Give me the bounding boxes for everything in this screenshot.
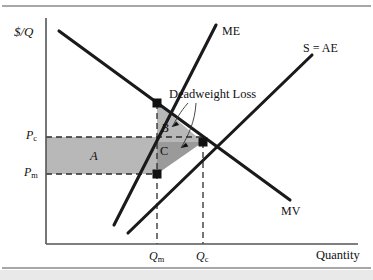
price-tick-pm: Pm bbox=[24, 166, 38, 181]
price-tick-pc-subscript: c bbox=[33, 134, 37, 143]
curve-label-me: ME bbox=[222, 25, 240, 37]
price-tick-pm-subscript: m bbox=[31, 171, 38, 180]
quantity-tick-qm: Qm bbox=[149, 250, 164, 265]
point-monopsony-outcome bbox=[153, 170, 162, 179]
quantity-tick-qc-subscript: c bbox=[205, 255, 209, 264]
quantity-tick-qc-base: Q bbox=[196, 249, 205, 263]
deadweight-loss-annotation: Deadweight Loss bbox=[169, 88, 256, 101]
y-axis-label: $/Q bbox=[14, 25, 34, 38]
point-competitive-equilibrium bbox=[199, 138, 208, 147]
quantity-tick-qc: Qc bbox=[196, 250, 208, 265]
region-label-a: A bbox=[90, 150, 98, 163]
curve-label-mv: MV bbox=[281, 205, 300, 217]
quantity-tick-qm-base: Q bbox=[149, 249, 158, 263]
curve-mv bbox=[59, 31, 290, 200]
bottom-band bbox=[0, 270, 373, 280]
quantity-tick-qm-subscript: m bbox=[158, 255, 165, 264]
region-label-c: C bbox=[160, 145, 168, 158]
curve-label-s-ae: S = AE bbox=[303, 42, 338, 54]
region-label-b: B bbox=[161, 122, 169, 135]
region-a-shade bbox=[46, 137, 157, 174]
point-me-mv-intersection bbox=[153, 99, 162, 108]
price-tick-pc: Pc bbox=[26, 129, 37, 144]
x-axis-label: Quantity bbox=[316, 249, 360, 262]
figure-canvas: $/Q Quantity ME S = AE MV Deadweight Los… bbox=[0, 0, 373, 280]
